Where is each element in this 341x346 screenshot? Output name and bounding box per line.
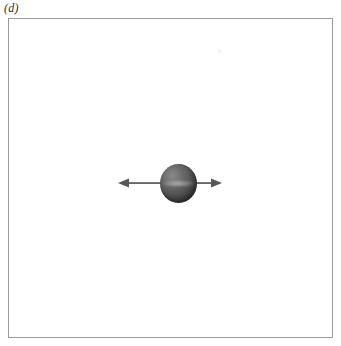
scan-speck-artifact bbox=[217, 49, 222, 53]
arrow-head-right bbox=[211, 178, 222, 187]
figure-panel: (d) bbox=[0, 0, 341, 346]
arrow-head-left bbox=[118, 178, 129, 187]
particle-sphere bbox=[160, 164, 197, 203]
panel-label: (d) bbox=[4, 1, 19, 15]
sphere-highlight bbox=[161, 181, 196, 186]
